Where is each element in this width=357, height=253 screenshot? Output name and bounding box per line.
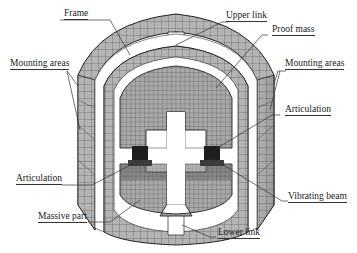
label-articulation-right: Articulation [285,104,331,116]
label-vibrating-beam: Vibrating beam [288,191,347,203]
label-proof-mass: Proof mass [272,24,315,36]
label-articulation-left: Articulation [16,173,62,185]
label-massive-part: Massive part [38,211,87,223]
label-frame: Frame [64,8,88,20]
label-mounting-areas-left: Mounting areas [10,58,69,70]
accelerometer-fem-diagram: Frame Upper link Proof mass Mounting are… [0,0,357,253]
label-lower-link: Lower link [218,227,260,239]
label-upper-link: Upper link [226,10,267,22]
label-mounting-areas-right: Mounting areas [285,58,344,70]
proof-mass-body [120,66,232,216]
